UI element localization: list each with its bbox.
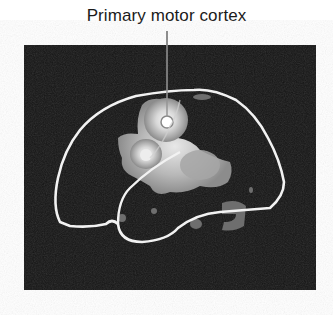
brain-scan-illustration: [0, 0, 333, 315]
activation-peak: [161, 116, 173, 128]
